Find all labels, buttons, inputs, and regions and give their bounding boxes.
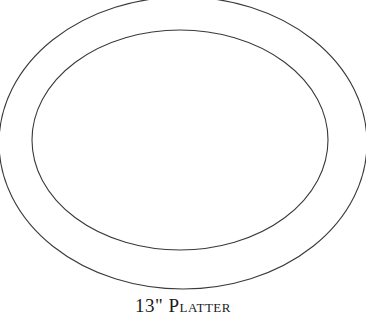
platter-caption: 13" Platter (0, 295, 366, 316)
platter-outer-rim (0, 0, 366, 289)
platter-inner-well (32, 30, 328, 250)
